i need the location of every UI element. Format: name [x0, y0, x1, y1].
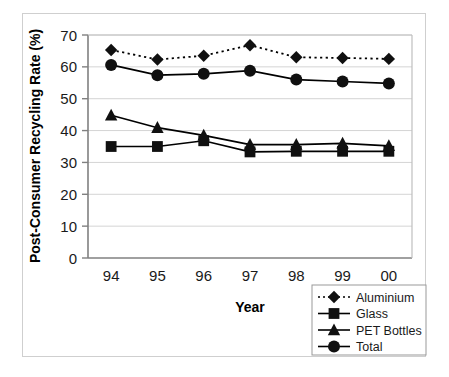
data-point-marker: [383, 53, 395, 65]
data-point-marker: [244, 39, 256, 51]
chart-container: 010203040506070 94959697989900 Year Post…: [0, 0, 449, 377]
x-axis-tick-label: 97: [242, 267, 259, 284]
data-point-marker: [336, 52, 348, 64]
x-axis-tick-label: 94: [103, 267, 120, 284]
line-chart: 010203040506070 94959697989900 Year Post…: [0, 0, 449, 377]
data-point-marker: [106, 141, 117, 152]
y-axis-tick-labels: 010203040506070: [60, 27, 77, 267]
legend-marker-circle: [328, 341, 340, 353]
data-point-marker: [152, 141, 163, 152]
legend-label: Total: [356, 340, 382, 354]
x-axis-tick-label: 95: [149, 267, 166, 284]
x-axis-tick-label: 98: [288, 267, 305, 284]
legend-label: Glass: [356, 307, 388, 321]
data-point-marker: [198, 68, 210, 80]
y-axis-tick-label: 10: [60, 218, 77, 235]
y-axis-tick-label: 40: [60, 122, 77, 139]
series-aluminium: [105, 39, 395, 66]
y-axis-tick-label: 60: [60, 58, 77, 75]
x-axis-tick-label: 00: [381, 267, 398, 284]
data-point-marker: [105, 59, 117, 71]
data-point-marker: [244, 65, 256, 77]
series-pet-bottles: [105, 109, 395, 151]
chart-legend: AluminiumGlassPET BottlesTotal: [312, 285, 426, 355]
y-axis-tick-label: 20: [60, 186, 77, 203]
x-axis-tick-labels: 94959697989900: [103, 267, 397, 284]
x-axis-tick-label: 96: [195, 267, 212, 284]
series-total: [105, 59, 395, 89]
legend-marker-square: [329, 308, 340, 319]
data-point-marker: [383, 77, 395, 89]
y-axis-tick-label: 50: [60, 90, 77, 107]
data-point-marker: [198, 50, 210, 62]
legend-label: Aluminium: [356, 291, 414, 305]
y-axis-tick-label: 70: [60, 27, 77, 44]
data-series-layer: [105, 39, 395, 157]
data-point-marker: [105, 109, 117, 121]
y-axis-tick-label: 0: [69, 250, 77, 267]
data-point-marker: [290, 51, 302, 63]
data-point-marker: [337, 76, 349, 88]
x-axis-tick-label: 99: [334, 267, 351, 284]
legend-label: PET Bottles: [356, 324, 422, 338]
data-point-marker: [151, 53, 163, 65]
y-gridlines: [88, 35, 412, 226]
y-axis-ticks: [82, 35, 88, 258]
y-axis-tick-label: 30: [60, 154, 77, 171]
x-axis-title: Year: [235, 299, 265, 315]
data-point-marker: [151, 69, 163, 81]
y-axis-title: Post-Consumer Recycling Rate (%): [27, 29, 43, 263]
data-point-marker: [290, 74, 302, 86]
data-point-marker: [105, 44, 117, 56]
